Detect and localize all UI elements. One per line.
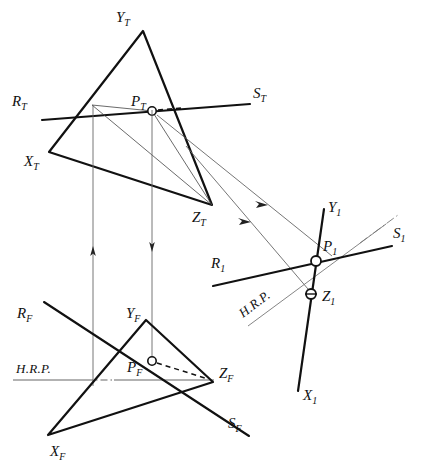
label-y-top: YT — [116, 9, 131, 28]
label-x-front: XF — [49, 443, 66, 462]
transfer-arrow-p — [255, 201, 268, 208]
top-view-thin-edge-c — [152, 111, 212, 205]
label-z-aux: Z1 — [322, 288, 335, 307]
label-y-front: YF — [126, 305, 141, 324]
label-x-aux: X1 — [302, 387, 317, 406]
label-z-front: ZF — [219, 365, 234, 384]
label-r-aux: R1 — [210, 255, 225, 274]
label-s-front: SF — [228, 415, 243, 434]
transfer-arrow-z — [238, 218, 251, 225]
transfer-line-p — [157, 115, 332, 256]
auxiliary-point-p — [311, 256, 321, 266]
technical-drawing-canvas: YT RT ST PT XT ZT — [0, 0, 423, 467]
label-z-top: ZT — [192, 209, 207, 228]
label-r-top: RT — [11, 93, 28, 112]
label-y-aux: Y1 — [328, 199, 341, 218]
auxiliary-xy-axis — [298, 209, 324, 391]
front-view-triangle — [48, 320, 213, 435]
label-hrp-front: H.R.P. — [15, 361, 51, 376]
front-view-group: RF YF H.R.P. PF ZF SF XF — [13, 302, 249, 462]
label-hrp-aux: H.R.P. — [235, 287, 273, 321]
figure-svg: YT RT ST PT XT ZT — [0, 0, 423, 467]
label-r-front: RF — [16, 305, 33, 324]
label-x-top: XT — [23, 153, 40, 172]
top-view-rs-line — [42, 104, 250, 120]
label-s-top: ST — [253, 85, 268, 104]
label-p-front: PF — [126, 359, 143, 378]
top-view-group: YT RT ST PT XT ZT — [11, 9, 268, 228]
front-view-point-p — [148, 357, 156, 365]
auxiliary-rs-line — [213, 246, 392, 286]
auxiliary-view-group: Y1 S1 P1 R1 Z1 X1 H.R.P. — [210, 199, 406, 406]
label-s-aux: S1 — [393, 225, 406, 244]
